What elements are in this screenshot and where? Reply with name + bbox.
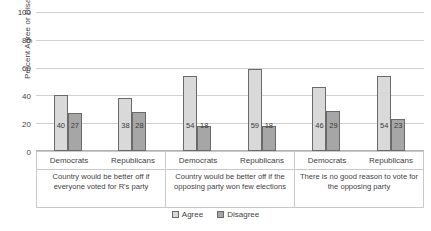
y-axis-tick-label: 40 bbox=[22, 91, 31, 100]
plot-area: 020406080100 402738285418591846295423 bbox=[36, 12, 424, 151]
category-caption: Country would be better off if the oppos… bbox=[166, 170, 294, 207]
bar-value-label: 27 bbox=[71, 121, 79, 130]
legend-item[interactable]: Disagree bbox=[217, 210, 259, 219]
y-axis-tick-label: 0 bbox=[27, 148, 31, 157]
category-group: DemocratsRepublicansCountry would be bet… bbox=[37, 152, 166, 207]
bar-value-label: 46 bbox=[315, 121, 323, 130]
bar-agree: 46 bbox=[312, 87, 326, 151]
bar-pair: 5418 bbox=[183, 12, 212, 151]
bar-value-label: 18 bbox=[265, 121, 273, 130]
party-label-row: DemocratsRepublicans bbox=[37, 152, 165, 170]
bar-disagree: 18 bbox=[262, 126, 276, 151]
legend-swatch-icon bbox=[217, 211, 224, 218]
party-label: Democrats bbox=[295, 152, 359, 169]
bar-value-label: 18 bbox=[200, 121, 208, 130]
bar-value-label: 54 bbox=[380, 121, 388, 130]
party-label: Democrats bbox=[166, 152, 230, 169]
category-group: DemocratsRepublicansCountry would be bet… bbox=[166, 152, 295, 207]
y-axis-tick-label: 80 bbox=[22, 35, 31, 44]
y-axis-tick-label: 60 bbox=[22, 63, 31, 72]
bar-disagree: 29 bbox=[326, 111, 340, 151]
category-group: DemocratsRepublicansThere is no good rea… bbox=[295, 152, 423, 207]
bar-pair: 3828 bbox=[118, 12, 147, 151]
party-label-row: DemocratsRepublicans bbox=[166, 152, 294, 170]
bar-disagree: 28 bbox=[132, 112, 146, 151]
party-label-row: DemocratsRepublicans bbox=[295, 152, 423, 170]
bar-group: 46295423 bbox=[295, 12, 424, 151]
bar-agree: 40 bbox=[54, 95, 68, 151]
legend-label: Agree bbox=[182, 210, 203, 219]
bars-layer: 402738285418591846295423 bbox=[36, 12, 424, 151]
bar-pair: 5918 bbox=[248, 12, 277, 151]
bar-pair: 4629 bbox=[312, 12, 341, 151]
party-label: Democrats bbox=[37, 152, 101, 169]
bar-chart: Percent Agree or Disagree 020406080100 4… bbox=[0, 0, 431, 231]
bar-pair: 4027 bbox=[54, 12, 83, 151]
bar-agree: 54 bbox=[377, 76, 391, 151]
bar-value-label: 29 bbox=[329, 121, 337, 130]
party-label: Republicans bbox=[359, 152, 423, 169]
legend-swatch-icon bbox=[172, 211, 179, 218]
y-axis-tick-label: 100 bbox=[18, 8, 31, 17]
bar-pair: 5423 bbox=[377, 12, 406, 151]
category-label-table: DemocratsRepublicansCountry would be bet… bbox=[36, 151, 424, 208]
bar-agree: 54 bbox=[183, 76, 197, 151]
category-caption: Country would be better off if everyone … bbox=[37, 170, 165, 207]
legend-item[interactable]: Agree bbox=[172, 210, 203, 219]
bar-disagree: 23 bbox=[391, 119, 405, 151]
party-label: Republicans bbox=[101, 152, 165, 169]
bar-disagree: 27 bbox=[68, 113, 82, 151]
party-label: Republicans bbox=[230, 152, 294, 169]
y-axis-tick-label: 20 bbox=[22, 119, 31, 128]
chart-legend: AgreeDisagree bbox=[0, 210, 431, 219]
bar-agree: 59 bbox=[248, 69, 262, 151]
bar-value-label: 54 bbox=[186, 121, 194, 130]
category-caption: There is no good reason to vote for the … bbox=[295, 170, 423, 207]
bar-disagree: 18 bbox=[197, 126, 211, 151]
bar-group: 40273828 bbox=[36, 12, 165, 151]
bar-agree: 38 bbox=[118, 98, 132, 151]
bar-value-label: 28 bbox=[135, 121, 143, 130]
bar-group: 54185918 bbox=[165, 12, 294, 151]
bar-value-label: 40 bbox=[57, 121, 65, 130]
bar-value-label: 59 bbox=[251, 121, 259, 130]
bar-value-label: 23 bbox=[394, 121, 402, 130]
bar-value-label: 38 bbox=[121, 121, 129, 130]
legend-label: Disagree bbox=[227, 210, 259, 219]
